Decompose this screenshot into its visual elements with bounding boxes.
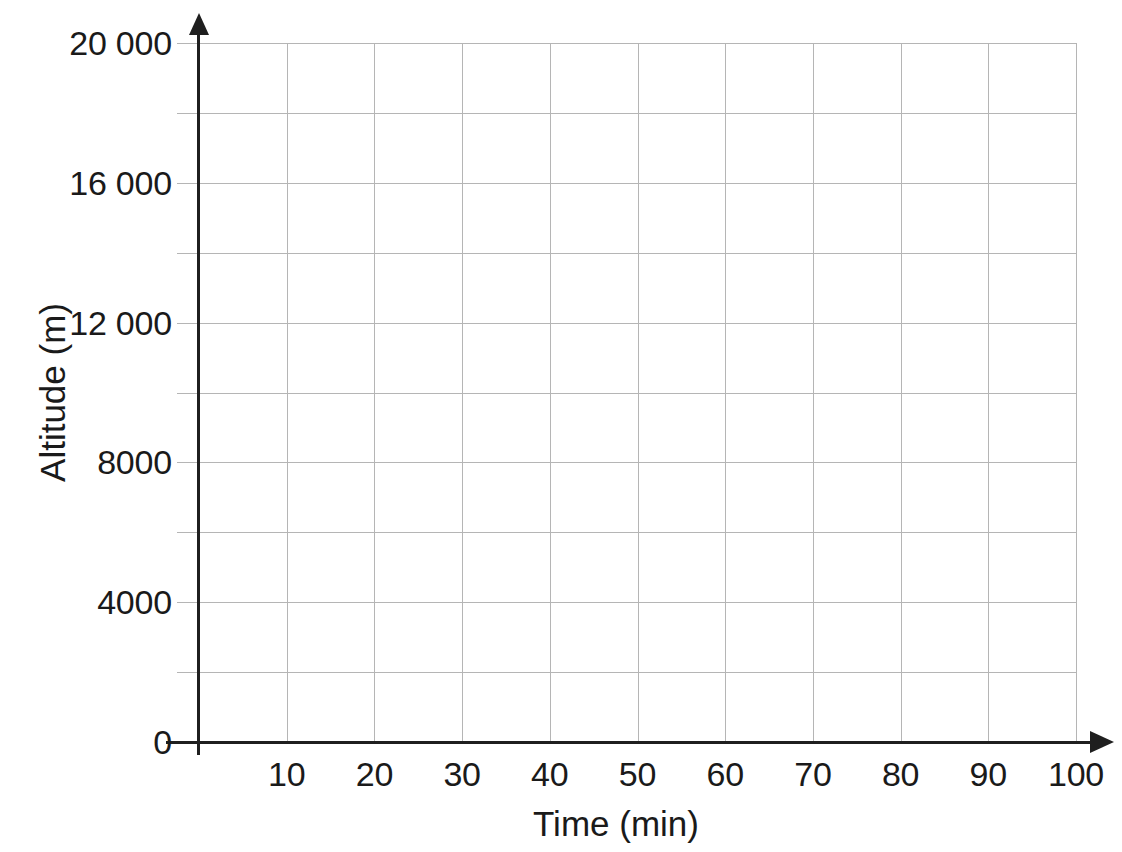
gridline-vertical <box>462 43 463 742</box>
gridline-horizontal <box>177 532 1076 533</box>
chart-container: 04000800012 00016 00020 000 Time (min) A… <box>0 0 1122 852</box>
gridline-vertical <box>901 43 902 742</box>
x-axis-title: Time (min) <box>0 806 1122 841</box>
gridline-vertical <box>813 43 814 742</box>
x-axis-tick-label: 30 <box>443 757 480 791</box>
gridline-horizontal <box>177 253 1076 254</box>
y-axis-arrowhead-icon <box>189 13 209 35</box>
x-axis-tick-label: 20 <box>356 757 393 791</box>
x-axis-tick-label: 60 <box>706 757 743 791</box>
y-axis-tick-label: 12 000 <box>69 306 172 340</box>
x-axis-tick-label: 50 <box>619 757 656 791</box>
y-axis-line <box>197 26 200 750</box>
gridline-vertical <box>550 43 551 742</box>
gridline-vertical <box>725 43 726 742</box>
gridline-horizontal <box>177 183 1076 184</box>
gridline-horizontal <box>177 393 1076 394</box>
y-axis-tick-label: 4000 <box>97 585 172 619</box>
gridline-vertical <box>287 43 288 742</box>
y-axis-tick-label: 16 000 <box>69 166 172 200</box>
gridline-horizontal <box>177 113 1076 114</box>
gridline-horizontal <box>177 602 1076 603</box>
gridline-vertical <box>638 43 639 742</box>
x-axis-tick-label: 80 <box>882 757 919 791</box>
plot-area <box>199 43 1076 742</box>
gridline-vertical <box>374 43 375 742</box>
gridline-vertical <box>1076 43 1077 742</box>
x-axis-tick-label: 10 <box>268 757 305 791</box>
y-axis-tick-label: 8000 <box>97 445 172 479</box>
origin-tick-mark <box>197 741 200 755</box>
x-axis-arrowhead-icon <box>1090 731 1114 753</box>
y-axis-tick-label: 0 <box>153 725 172 759</box>
x-axis-tick-label: 40 <box>531 757 568 791</box>
gridline-horizontal <box>177 323 1076 324</box>
x-axis-tick-label: 90 <box>970 757 1007 791</box>
gridline-horizontal <box>177 462 1076 463</box>
y-axis-tick-labels: 04000800012 00016 00020 000 <box>0 0 172 852</box>
y-axis-title: Altitude (m) <box>35 0 70 793</box>
gridline-vertical <box>988 43 989 742</box>
x-axis-tick-label: 100 <box>1048 757 1104 791</box>
x-axis-tick-label: 70 <box>794 757 831 791</box>
y-axis-tick-label: 20 000 <box>69 26 172 60</box>
gridline-horizontal <box>177 43 1076 44</box>
x-axis-title-text: Time (min) <box>533 806 699 841</box>
gridline-horizontal <box>177 672 1076 673</box>
x-axis-line <box>166 741 1096 744</box>
